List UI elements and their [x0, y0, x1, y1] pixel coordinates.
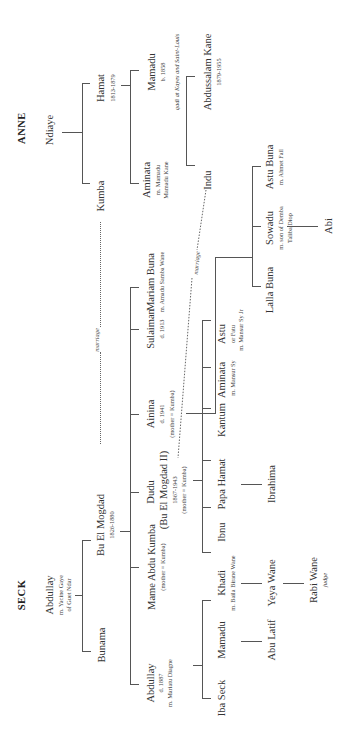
person-ainina: Ainina [146, 400, 157, 429]
hamat-dates: 1813-1879 [110, 74, 116, 101]
bu-el-mogdad-dates: 1826-1880 [109, 511, 115, 538]
person-indu: Indu [203, 170, 214, 189]
person-bu-el-mogdad: Bu El Mogdad [96, 494, 107, 556]
tick-mamadu-seck [202, 600, 211, 601]
dudu-stub [193, 480, 202, 481]
person-abi: Abi [324, 218, 335, 234]
dudu-dates: 1867-1943 [172, 476, 178, 503]
abdullay-children-bracket [82, 540, 83, 652]
abdullay-spouse-1: m. Yacine Gaye [58, 575, 64, 615]
person-dudu: Dudu [146, 480, 157, 503]
mariam-buna-spouse: m. Amadu Samba Wane [159, 252, 165, 313]
ainina-stub [186, 413, 215, 414]
mame-abdu-kumba-note: (mother = Kumba) [160, 543, 166, 590]
mamadu-to-abu-latif [241, 641, 262, 642]
tick-astu-buna [252, 166, 261, 167]
family-title-anne: ANNE [17, 112, 28, 144]
aminata-spouse-1: m. Mamadu [155, 165, 161, 195]
tick-astu [202, 320, 211, 321]
family-title-seck: SECK [17, 580, 28, 611]
tick-kantum [202, 408, 211, 409]
aminata-gen4-spouse: m. Mansur Sy [230, 360, 236, 396]
abdullay-stub [75, 595, 82, 596]
person-mame-abdu-kumba: Mame Abdu Kumba [147, 524, 158, 610]
tick-lalla-buna [252, 286, 261, 287]
ainina-link-horizontal [215, 257, 252, 258]
ainina-note: (mother = Kumba) [169, 390, 175, 437]
dudu-children-bracket [202, 320, 203, 553]
person-iba-seck: Iba Seck [217, 680, 228, 716]
person-papa-hamat: Papa Hamat [217, 458, 228, 509]
abdullay-spouse-2: of Guet Ndar [66, 578, 72, 611]
person-kantum: Kantum [217, 403, 228, 437]
person-abdussalam-kane: Abdussalam Kane [203, 34, 214, 111]
astu-buna-spouse: m. Ahmet Fall [278, 149, 284, 185]
person-abdullay-gen3: Abdullay [146, 663, 157, 702]
person-ibnu: Ibnu [217, 522, 228, 541]
person-yeya-wane: Yeya Wane [267, 559, 278, 606]
person-hamat: Hamat [96, 74, 107, 102]
mamadu-note: qadi at Kayes and Saint-Louis [174, 34, 180, 110]
person-rabi-wane: Rabi Wane [309, 557, 320, 603]
person-aminata-anne: Aminata [142, 162, 153, 198]
person-ibrahima: Ibrahima [267, 465, 278, 503]
sowadu-spouse-2: Taliba Diop [287, 213, 293, 243]
mamadu-born: b. 1858 [160, 63, 166, 82]
tick-ainina [130, 414, 139, 415]
tick-sulaiman [130, 329, 139, 330]
abdullay-gen3-children-bracket [202, 600, 203, 699]
khadi-spouse: m. Baila Birane Wane [230, 555, 236, 610]
abdullay-gen3-stub [193, 665, 202, 666]
person-kumba: Kumba [96, 181, 107, 212]
tick-bu-el-mogdad [82, 540, 91, 541]
tick-abdullay-gen3 [130, 684, 139, 685]
abdussalam-dates: 1879-1955 [216, 58, 222, 85]
abdullay-gen3-spouse: m. Mariatu Diagne [167, 659, 173, 707]
ainina-death: d. 1941 [159, 405, 165, 424]
aminata-spouse-2: Mamadu Kane [163, 161, 169, 198]
tick-sowadu [252, 226, 261, 227]
person-sulaiman: Sulaiman [146, 309, 157, 349]
tick-iba-seck [202, 698, 211, 699]
tick-papa-hamat [202, 460, 211, 461]
person-astu-buna: Astu Buna [265, 145, 276, 190]
astu-spouse: m. Mansur Sy Jr [238, 309, 244, 351]
person-mamadu-anne: Mamadu [147, 53, 158, 90]
papa-hamat-to-ibrahima [241, 484, 262, 485]
bu-el-mogdad-stub [120, 531, 130, 532]
khadi-to-yeya-wane [241, 583, 262, 584]
person-bunama: Bunama [97, 628, 108, 663]
person-abdullay: Abdullay [45, 575, 56, 614]
dudu-alias: (Bu El Mogdad II) [159, 451, 170, 529]
yeya-wane-to-rabi-wane [283, 583, 304, 584]
marriage-label-1: marriage [94, 328, 100, 351]
person-khadi: Khadi [217, 570, 228, 596]
person-astu: Astu [217, 324, 228, 344]
tick-dudu [130, 492, 139, 493]
tick-mame-abdu-kumba [130, 567, 139, 568]
bu-el-mogdad-children-bracket [130, 287, 131, 685]
person-mamadu-seck: Mamadu [217, 621, 228, 658]
person-lalla-buna: Lalla Buna [265, 267, 276, 313]
sulaiman-death: d. 1913 [159, 320, 165, 339]
tick-ibnu [202, 507, 211, 508]
rabi-wane-note: judge [322, 573, 328, 587]
person-sowadu: Sowadu [265, 211, 276, 245]
person-mariam-buna: Mariam Buna [146, 253, 157, 311]
dudu-note: (mother = Kumba) [181, 466, 187, 513]
sowadu-spouse-1: m. son of Demba [278, 206, 284, 249]
person-ndiaye: Ndiaye [45, 115, 56, 145]
diagonal-marriage-line [0, 0, 349, 748]
tick-mariam-buna [130, 287, 139, 288]
tick-khadi [202, 552, 211, 553]
tick-bunama [82, 651, 91, 652]
person-abu-latif: Abu Latif [267, 619, 278, 660]
astu-alias: or Fatu [230, 325, 236, 343]
person-aminata-gen4: Aminata [217, 362, 228, 398]
abdullay-gen3-death: d. 1887 [158, 674, 164, 693]
tick-aminata-gen4 [202, 367, 211, 368]
